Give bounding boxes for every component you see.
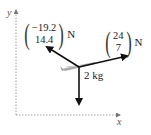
right-paren: ) <box>126 27 132 57</box>
left-paren: ( <box>24 19 30 49</box>
mass-label: 2 kg <box>84 70 103 81</box>
force-right-arrow <box>79 56 127 67</box>
left-paren: ( <box>105 27 111 57</box>
force-left-label: ( −19.2 14.4 ) N <box>22 19 75 49</box>
vector-components: 24 7 <box>113 30 124 54</box>
x-axis-label: x <box>117 117 121 127</box>
y-axis-label: y <box>7 8 11 18</box>
force-left-arrow <box>47 47 79 67</box>
vector-components: −19.2 14.4 <box>32 22 56 46</box>
force-right-label: ( 24 7 ) N <box>103 27 142 57</box>
unit: N <box>135 36 143 48</box>
unit: N <box>67 28 75 40</box>
right-paren: ) <box>59 19 65 49</box>
